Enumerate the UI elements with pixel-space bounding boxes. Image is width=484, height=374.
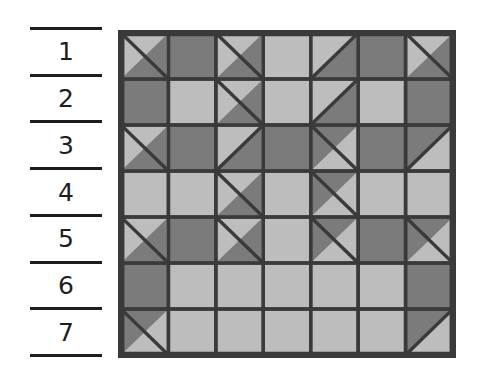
quilt-cell-r6c6	[360, 265, 404, 308]
row-number-6: 6	[30, 264, 102, 308]
quilt-cell-r7c6	[360, 311, 404, 354]
row-number-3: 3	[30, 123, 102, 167]
quilt-grid-container	[118, 30, 456, 358]
quilt-cell-r1c6	[360, 35, 404, 78]
quilt-cell-r7c4	[265, 311, 309, 354]
quilt-cell-r4c7	[407, 173, 451, 216]
quilt-cell-r6c4	[265, 265, 309, 308]
quilt-cell-r1c2	[170, 35, 214, 78]
quilt-cell-r5c2	[170, 219, 214, 262]
quilt-cell-r2c7	[407, 81, 451, 124]
quilt-cell-r6c3	[218, 265, 262, 308]
quilt-cell-r4c4	[265, 173, 309, 216]
quilt-grid	[121, 33, 453, 355]
quilt-cell-r4c2	[170, 173, 214, 216]
quilt-cell-r2c4	[265, 81, 309, 124]
quilt-cell-r2c1	[123, 81, 167, 124]
row-number-5: 5	[30, 217, 102, 261]
quilt-cell-r2c6	[360, 81, 404, 124]
quilt-cell-r6c1	[123, 265, 167, 308]
quilt-cell-r6c5	[312, 265, 356, 308]
quilt-figure: 1234567	[0, 0, 484, 374]
quilt-cell-r1c4	[265, 35, 309, 78]
row-number-key: 1234567	[30, 27, 102, 357]
row-number-1: 1	[30, 30, 102, 74]
quilt-cell-r7c3	[218, 311, 262, 354]
key-divider-7	[30, 354, 102, 357]
quilt-cell-r7c5	[312, 311, 356, 354]
quilt-cell-r4c6	[360, 173, 404, 216]
quilt-cell-r3c6	[360, 127, 404, 170]
quilt-cell-r7c2	[170, 311, 214, 354]
quilt-cell-r3c4	[265, 127, 309, 170]
quilt-cell-r6c2	[170, 265, 214, 308]
row-number-7: 7	[30, 310, 102, 354]
quilt-cell-r2c2	[170, 81, 214, 124]
quilt-cell-r5c6	[360, 219, 404, 262]
quilt-cell-r3c2	[170, 127, 214, 170]
quilt-cell-r4c1	[123, 173, 167, 216]
row-number-4: 4	[30, 170, 102, 214]
quilt-cell-r5c4	[265, 219, 309, 262]
row-number-2: 2	[30, 77, 102, 121]
quilt-cell-r6c7	[407, 265, 451, 308]
